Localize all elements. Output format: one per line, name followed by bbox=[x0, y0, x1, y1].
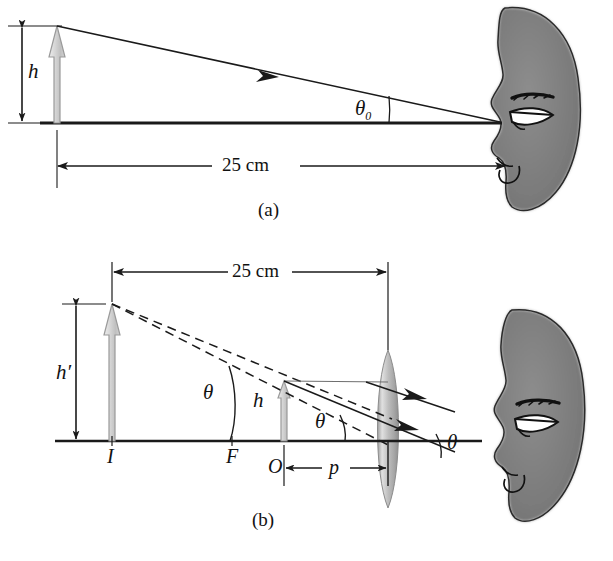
optics-figure bbox=[0, 0, 613, 561]
angle-arc-theta-3 bbox=[436, 434, 441, 458]
angle-arc-theta0 bbox=[389, 96, 390, 123]
label-p: p bbox=[329, 457, 339, 477]
panel-a bbox=[8, 8, 580, 211]
panel-b bbox=[55, 262, 585, 521]
label-point-I: I bbox=[107, 446, 114, 466]
label-theta-2: θ bbox=[315, 411, 325, 432]
chief-ray-panel-a bbox=[57, 26, 500, 122]
label-h-panel-b: h bbox=[253, 390, 264, 411]
label-distance-panel-a: 25 cm bbox=[222, 155, 269, 174]
eye-icon-panel-b bbox=[494, 310, 584, 522]
label-point-O: O bbox=[268, 456, 282, 476]
angle-arc-theta-2 bbox=[340, 415, 345, 441]
dashed-ray-upper bbox=[112, 304, 392, 419]
label-theta-1: θ bbox=[203, 382, 213, 403]
label-theta0: θ0 bbox=[355, 98, 371, 122]
label-theta0-sub: 0 bbox=[365, 109, 371, 123]
label-point-F: F bbox=[226, 446, 238, 466]
label-h-prime: h′ bbox=[56, 362, 71, 383]
object-arrow-panel-a bbox=[49, 26, 65, 123]
dashed-ray-lower bbox=[112, 304, 392, 447]
ray-arrowhead-upper bbox=[402, 388, 427, 400]
label-distance-panel-b: 25 cm bbox=[232, 261, 279, 280]
caption-panel-b: (b) bbox=[252, 510, 274, 529]
label-theta0-base: θ bbox=[355, 96, 365, 120]
caption-panel-a: (a) bbox=[258, 200, 279, 219]
image-arrow bbox=[104, 304, 120, 441]
eye-icon-panel-a bbox=[491, 8, 580, 211]
angle-arc-theta-1 bbox=[229, 366, 235, 441]
label-h-panel-a: h bbox=[28, 61, 39, 82]
label-theta-3: θ bbox=[447, 432, 457, 453]
